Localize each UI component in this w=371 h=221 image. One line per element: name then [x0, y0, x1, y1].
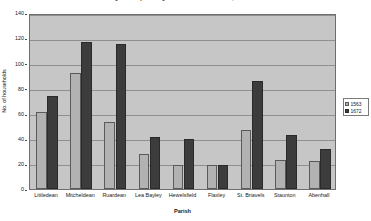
- x-axis-title: Parish: [29, 208, 336, 215]
- bar: [104, 122, 115, 189]
- chart-title: Figure 1: Population growth in the Fores…: [40, 0, 330, 2]
- bar: [309, 161, 320, 189]
- x-tick-label: Mitcheldean: [63, 192, 97, 198]
- bar-chart: Figure 1: Population growth in the Fores…: [0, 0, 371, 221]
- y-tick-mark: [25, 14, 27, 15]
- x-tick-label: St. Briavels: [234, 192, 268, 198]
- legend-item[interactable]: 1672: [345, 107, 367, 114]
- x-tick-label: Ruardean: [97, 192, 131, 198]
- x-tick-label: Lea Bayley: [131, 192, 165, 198]
- y-tick-mark: [25, 190, 27, 191]
- legend-swatch-icon: [345, 102, 349, 106]
- gridline: [30, 40, 335, 41]
- y-tick-mark: [25, 165, 27, 166]
- bar: [139, 154, 150, 189]
- x-tick-label: Flaxley: [200, 192, 234, 198]
- y-tick-mark: [25, 39, 27, 40]
- legend-label: 1672: [351, 108, 362, 114]
- bar: [173, 165, 184, 189]
- y-tick-label: 80: [18, 87, 24, 92]
- gridline: [30, 65, 335, 66]
- bar: [320, 149, 331, 189]
- y-tick-label: 100: [15, 62, 24, 67]
- x-tick-label: Abenhall: [302, 192, 336, 198]
- y-tick-label: 20: [18, 162, 24, 167]
- bar: [184, 139, 195, 189]
- chart-legend: 15631672: [343, 98, 369, 116]
- x-tick-label: Staunton: [268, 192, 302, 198]
- bar: [286, 135, 297, 189]
- y-tick-label: 120: [15, 36, 24, 41]
- legend-item[interactable]: 1563: [345, 100, 367, 107]
- bar: [207, 165, 218, 189]
- bar: [241, 130, 252, 189]
- bar: [150, 137, 161, 189]
- bar: [275, 160, 286, 189]
- y-axis: 020406080100120140: [6, 14, 27, 190]
- plot-area: [29, 14, 336, 190]
- bar: [36, 112, 47, 189]
- bar: [70, 73, 81, 189]
- x-tick-label: Littledean: [29, 192, 63, 198]
- y-tick-label: 40: [18, 137, 24, 142]
- bar: [47, 96, 58, 189]
- x-axis: LittledeanMitcheldeanRuardeanLea BayleyH…: [29, 192, 336, 202]
- x-tick-label: Hewelsfield: [165, 192, 199, 198]
- y-tick-label: 60: [18, 112, 24, 117]
- y-tick-label: 0: [21, 187, 24, 192]
- y-tick-mark: [25, 89, 27, 90]
- bar: [218, 165, 229, 189]
- legend-swatch-icon: [345, 109, 349, 113]
- legend-label: 1563: [351, 101, 362, 107]
- y-tick-mark: [25, 115, 27, 116]
- bar: [81, 42, 92, 189]
- bar: [252, 81, 263, 189]
- y-tick-mark: [25, 140, 27, 141]
- y-tick-label: 140: [15, 11, 24, 16]
- bar: [116, 44, 127, 189]
- gridline: [30, 15, 335, 16]
- y-tick-mark: [25, 64, 27, 65]
